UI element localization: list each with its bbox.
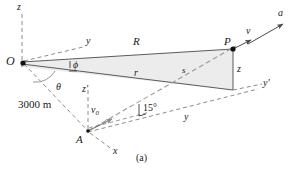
point-O-marker <box>20 60 25 65</box>
point-O-label: O <box>6 55 15 67</box>
launch-angle-value: 15 <box>143 102 153 113</box>
ground-y-line <box>88 89 258 132</box>
y-axis-label: y <box>86 36 90 46</box>
x-axis-line <box>90 133 113 150</box>
degree-symbol: ° <box>153 102 157 113</box>
velocity-arrow <box>233 40 251 49</box>
point-A-marker <box>86 129 90 133</box>
initial-velocity-label: v0 <box>91 105 99 116</box>
point-P-marker <box>230 46 235 51</box>
y-ground-label: y <box>184 112 188 122</box>
z-axis-label: z <box>17 2 21 12</box>
distance-OA-label: 3000 m <box>18 99 51 110</box>
y-prime-axis-label: y' <box>263 78 270 88</box>
phi-angle-label: ϕ <box>73 60 78 70</box>
theta-angle-label: θ <box>56 82 61 92</box>
velocity-label: v <box>246 26 250 36</box>
acceleration-arrow <box>248 24 283 44</box>
vector-r-label: r <box>134 68 138 78</box>
height-z-label: z <box>237 64 241 74</box>
point-A-label: A <box>76 134 83 145</box>
x-axis-label: x <box>113 146 117 156</box>
y-prime-axis-line <box>233 84 262 90</box>
initial-velocity-arrow <box>88 119 112 131</box>
figure-caption: (a) <box>136 153 147 163</box>
initial-velocity-subscript: 0 <box>95 109 98 116</box>
acceleration-label: a <box>278 8 283 18</box>
point-P-label: P <box>224 36 231 47</box>
vector-s-label: s <box>182 66 186 75</box>
z-prime-axis-label: z' <box>82 84 88 94</box>
launch-angle-label: 15° <box>143 103 157 113</box>
vector-R-label: R <box>133 36 140 47</box>
